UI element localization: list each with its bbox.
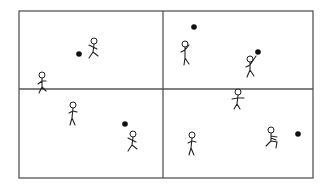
stick-figure-icon — [232, 89, 244, 109]
stick-figure-icon — [128, 131, 137, 151]
stick-figure-icon — [69, 102, 77, 125]
panel-bottom-left — [69, 102, 137, 151]
outer-frame — [19, 11, 313, 178]
ball-icon — [191, 24, 197, 30]
stick-figure-icon — [181, 41, 189, 65]
ball-icon — [76, 51, 82, 57]
panel-top-right — [181, 24, 261, 77]
ball-icon — [255, 49, 261, 55]
stick-figure-icon — [266, 127, 277, 148]
stick-figure-icon — [188, 132, 196, 155]
stick-figure-icon — [89, 38, 98, 58]
stick-figure-icon — [38, 72, 46, 93]
stick-figure-icon — [246, 56, 256, 77]
panel-top-left — [38, 38, 98, 93]
ball-icon — [295, 131, 301, 137]
ball-icon — [122, 121, 128, 127]
panel-bottom-right — [188, 89, 301, 155]
four-panel-diagram — [0, 0, 327, 187]
